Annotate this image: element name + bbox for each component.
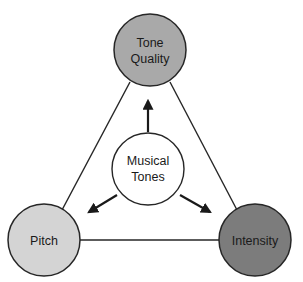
node-intensity: Intensity	[219, 204, 291, 276]
edge-tonequality-intensity	[170, 82, 237, 210]
node-intensity-label: Intensity	[232, 234, 279, 248]
node-musical-tones: Musical Tones	[112, 133, 184, 205]
node-tone-quality-line1: Tone	[136, 36, 163, 50]
musical-tones-diagram: Musical Tones Tone Quality Pitch Intensi…	[0, 0, 303, 282]
node-musical-tones-line1: Musical	[127, 154, 169, 168]
node-tone-quality-line2: Quality	[131, 52, 171, 66]
arrow-to-intensity	[180, 195, 210, 212]
node-musical-tones-line2: Tones	[131, 170, 164, 184]
node-pitch-label: Pitch	[30, 234, 58, 248]
node-pitch: Pitch	[8, 204, 80, 276]
arrow-to-pitch	[89, 195, 117, 212]
node-tone-quality: Tone Quality	[114, 14, 186, 86]
